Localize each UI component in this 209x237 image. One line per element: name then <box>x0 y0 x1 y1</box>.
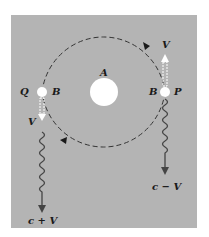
label-b-left: B <box>51 86 60 97</box>
body-b-left <box>37 87 47 97</box>
orbit-arrow-upper-icon <box>143 42 150 50</box>
label-p: P <box>173 86 182 97</box>
binary-star-diagram: A Q B V c + V B P V c − V <box>0 0 209 237</box>
label-v-left: V <box>28 116 37 127</box>
orbit-arrow-lower-icon <box>60 137 67 144</box>
central-body-a <box>90 78 118 106</box>
light-wave-right <box>161 99 169 175</box>
label-v-right: V <box>162 39 171 50</box>
label-q: Q <box>20 86 29 97</box>
velocity-arrow-left-icon <box>38 98 46 121</box>
label-c-plus-v: c + V <box>28 215 58 226</box>
body-b-right <box>160 87 170 97</box>
label-a: A <box>99 67 108 78</box>
label-b-right: B <box>148 86 157 97</box>
label-c-minus-v: c − V <box>152 181 182 192</box>
light-wave-left <box>38 132 46 213</box>
